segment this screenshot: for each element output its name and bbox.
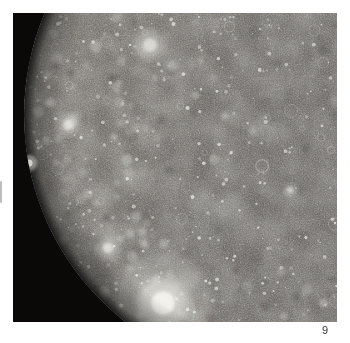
callisto-moon-image	[13, 13, 337, 322]
book-page: 9	[0, 0, 350, 343]
page-number: 9	[319, 324, 331, 337]
callisto-photograph	[13, 13, 337, 322]
page-edge-mark	[0, 181, 2, 203]
